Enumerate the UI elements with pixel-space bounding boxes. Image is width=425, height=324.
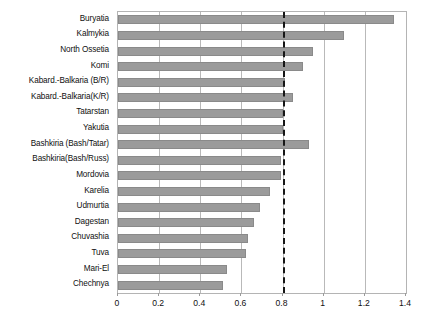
category-label: Kabard.-Balkaria (B/R)	[29, 76, 109, 85]
category-label: Mordovia	[76, 170, 109, 179]
category-label: Buryatia	[80, 14, 109, 23]
bar	[118, 15, 394, 24]
tick-label: 1	[307, 298, 339, 308]
tick-mark	[282, 293, 283, 296]
tick-mark	[158, 293, 159, 296]
category-label: Komi	[91, 61, 109, 70]
bar	[118, 281, 223, 290]
tick-mark	[405, 293, 406, 296]
tick-label: 0.2	[142, 298, 174, 308]
plot-area	[117, 11, 407, 294]
bar	[118, 218, 254, 227]
bar	[118, 125, 283, 134]
category-label: Chuvashia	[71, 232, 109, 241]
category-label: Kalmykia	[77, 29, 109, 38]
category-label: Yakutia	[83, 123, 109, 132]
tick-mark	[117, 293, 118, 296]
tick-label: 0	[101, 298, 133, 308]
tick-label: 0.8	[266, 298, 298, 308]
bar	[118, 156, 281, 165]
plot-inner	[118, 12, 406, 293]
bar	[118, 140, 309, 149]
bar	[118, 78, 285, 87]
category-label: Karelia	[84, 186, 109, 195]
bar	[118, 249, 246, 258]
bar	[118, 62, 303, 71]
category-label: Kabard.-Balkaria(K/R)	[31, 92, 109, 101]
tick-label: 1.2	[348, 298, 380, 308]
bar	[118, 93, 293, 102]
bar	[118, 234, 248, 243]
bar	[118, 31, 344, 40]
bar-chart: BuryatiaKalmykiaNorth OssetiaKomiKabard.…	[0, 0, 425, 324]
category-label: Tuva	[92, 248, 110, 257]
bar	[118, 203, 260, 212]
threshold-reference-line	[283, 12, 285, 293]
tick-label: 0.4	[183, 298, 215, 308]
category-axis: BuryatiaKalmykiaNorth OssetiaKomiKabard.…	[0, 0, 113, 324]
tick-label: 1.4	[389, 298, 421, 308]
tick-mark	[364, 293, 365, 296]
bar	[118, 265, 227, 274]
tick-mark	[240, 293, 241, 296]
tick-mark	[199, 293, 200, 296]
tick-label: 0.6	[224, 298, 256, 308]
category-label: North Ossetia	[60, 45, 109, 54]
bar	[118, 109, 283, 118]
bar	[118, 187, 270, 196]
gridline	[324, 12, 325, 293]
category-label: Chechnya	[73, 279, 109, 288]
tick-mark	[323, 293, 324, 296]
category-label: Mari-El	[84, 264, 109, 273]
gridline	[365, 12, 366, 293]
category-label: Bashkiria (Bash/Tatar)	[31, 139, 109, 148]
category-label: Udmurtia	[77, 201, 109, 210]
category-label: Tatarstan	[76, 107, 109, 116]
category-label: Bashkiria(Bash/Russ)	[32, 154, 109, 163]
category-label: Dagestan	[75, 217, 109, 226]
bar	[118, 171, 281, 180]
value-axis: 00.20.40.60.811.21.4	[117, 293, 405, 317]
